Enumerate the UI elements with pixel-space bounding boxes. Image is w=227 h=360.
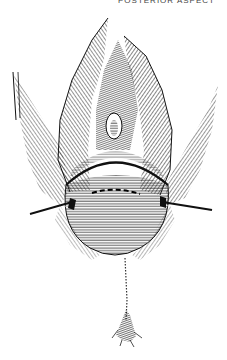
anatomical-illustration bbox=[0, 0, 227, 360]
right-outer-fold bbox=[165, 85, 218, 205]
anal-tuft bbox=[112, 258, 142, 347]
